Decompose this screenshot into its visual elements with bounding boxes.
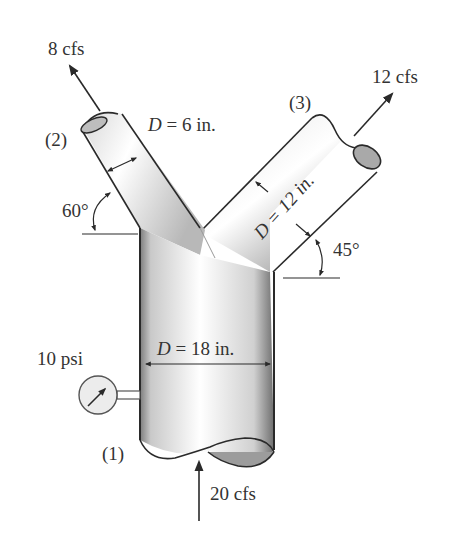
flow-arrow-2 bbox=[70, 66, 100, 111]
flow-arrow-3 bbox=[354, 94, 392, 136]
diameter-label-1: D = 18 in. bbox=[156, 338, 234, 359]
angle-arc-60 bbox=[93, 193, 110, 230]
flow-label-2: 8 cfs bbox=[48, 38, 84, 59]
flow-label-3: 12 cfs bbox=[372, 66, 418, 87]
section-label-2: (2) bbox=[45, 129, 67, 151]
pressure-gauge-icon bbox=[79, 376, 140, 414]
diameter-label-2: D = 6 in. bbox=[147, 114, 216, 135]
pressure-label-1: 10 psi bbox=[37, 348, 83, 369]
angle-arc-45 bbox=[316, 240, 322, 275]
section-label-1: (1) bbox=[102, 443, 124, 465]
flow-label-1: 20 cfs bbox=[210, 483, 256, 504]
pipe-junction-diagram: 8 cfs (2) D = 6 in. 60° (3) 12 cfs D = 1… bbox=[0, 0, 454, 546]
angle-label-60: 60° bbox=[62, 200, 89, 221]
section-label-3: (3) bbox=[289, 92, 311, 114]
dim-arrow-12in-bottom bbox=[296, 224, 310, 236]
angle-label-45: 45° bbox=[333, 239, 360, 260]
